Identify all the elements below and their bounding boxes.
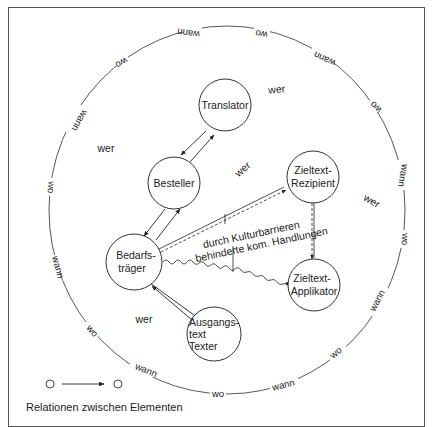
wer-label: wer — [97, 142, 115, 154]
wer-label: wer — [361, 191, 383, 211]
ring-label-wo-top: wo — [254, 28, 269, 41]
node-label: Ausgangs- — [189, 316, 240, 328]
annotation: durch Kulturbarrieren behinderte kom. Ha… — [192, 213, 329, 265]
node-label: text — [189, 328, 206, 340]
node-label: Besteller — [154, 177, 195, 189]
node-label: Texter — [189, 340, 218, 352]
legend-label: Relationen zwischen Elementen — [26, 401, 183, 413]
node-label: Applikator — [291, 285, 338, 297]
node-label: Zieltext- — [293, 272, 331, 284]
node-label: Translator — [202, 99, 249, 111]
wer-label: wer — [135, 313, 153, 325]
node-label: Rezipient — [291, 177, 335, 189]
ring-label-wo-bottom: wo — [211, 388, 224, 399]
legend-node-icon — [114, 380, 122, 388]
node-ausgangstext-texter: Ausgangs- text Texter — [187, 307, 241, 361]
legend-node-icon — [46, 380, 54, 388]
ring-label-wo-left: wo — [45, 180, 57, 194]
node-label: Zieltext- — [294, 164, 332, 176]
node-bedarfstraeger: Bedarfs- träger — [106, 234, 162, 290]
node-label: träger — [118, 262, 146, 274]
node-besteller: Besteller — [148, 157, 200, 209]
wer-label: wer — [267, 82, 286, 96]
node-label: Bedarfs- — [116, 249, 156, 261]
node-zieltext-applikator: Zieltext- Applikator — [288, 259, 340, 311]
node-zieltext-rezipient: Zieltext- Rezipient — [287, 151, 339, 203]
legend — [46, 380, 122, 388]
barrier-relation-wavy — [163, 260, 289, 286]
node-translator: Translator — [199, 79, 251, 131]
ring-label-wo-right: wo — [400, 232, 412, 246]
wer-label: wer — [231, 159, 253, 180]
